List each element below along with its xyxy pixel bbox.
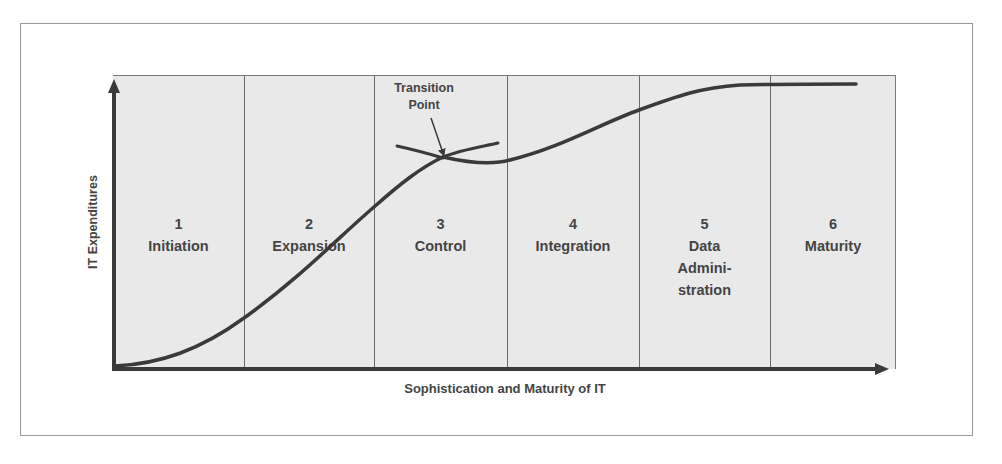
transition-point-label: Transition Point <box>379 80 469 114</box>
y-axis-label: IT Expenditures <box>86 175 100 269</box>
x-axis-label: Sophistication and Maturity of IT <box>404 381 606 396</box>
transition-branch-line <box>443 143 498 157</box>
transition-branch-line <box>397 146 443 158</box>
annotation-text: Transition Point <box>379 80 469 114</box>
expenditure-curve <box>115 84 856 366</box>
transition-pointer-arrow <box>431 118 443 153</box>
